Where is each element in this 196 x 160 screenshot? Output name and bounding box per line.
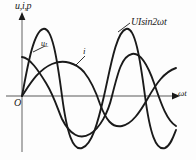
origin-label: O bbox=[14, 98, 21, 108]
waveform-figure: u,i,p ωt O uL i UIsin2ωt bbox=[0, 0, 196, 160]
curve-label-i: i bbox=[83, 47, 86, 56]
curve-label-power: UIsin2ωt bbox=[131, 17, 166, 27]
curve-label-ul: uL bbox=[41, 40, 48, 48]
curve-ul bbox=[22, 54, 176, 137]
x-axis-label: ωt bbox=[178, 89, 187, 98]
curve-label-ul-subscript: L bbox=[45, 42, 48, 48]
y-axis-arrow bbox=[19, 12, 26, 20]
y-axis-label: u,i,p bbox=[15, 1, 31, 11]
leader-line-i bbox=[76, 56, 85, 65]
waveform-plot bbox=[0, 0, 196, 160]
